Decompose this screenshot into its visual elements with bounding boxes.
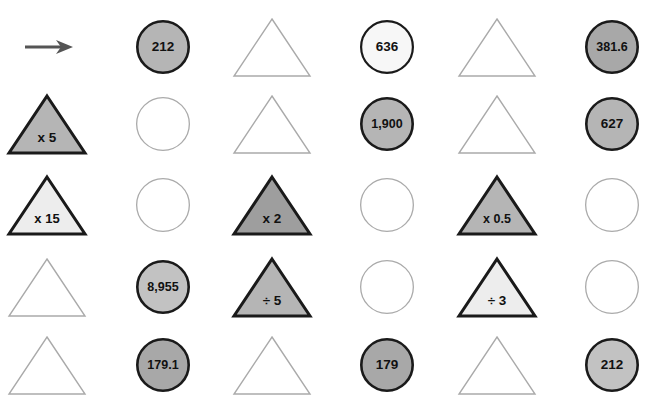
arrow-right-icon xyxy=(23,36,75,62)
shape-label: ÷ 3 xyxy=(488,293,507,308)
value-circle-r3c6[interactable] xyxy=(579,172,645,238)
operation-triangle-r3c5[interactable]: x 0.5 xyxy=(453,171,541,240)
shape-label: 1,900 xyxy=(371,117,402,131)
operation-triangle-r5c3[interactable] xyxy=(228,331,316,400)
value-circle-r5c2[interactable]: 179.1 xyxy=(130,332,196,398)
operation-triangle-r3c1[interactable]: x 15 xyxy=(3,171,91,240)
value-circle-r5c4[interactable]: 179 xyxy=(354,332,420,398)
operation-triangle-r1c3[interactable] xyxy=(228,13,316,82)
shape-label: x 0.5 xyxy=(483,212,511,226)
operation-triangle-r5c1[interactable] xyxy=(3,331,91,400)
operation-triangle-r5c5[interactable] xyxy=(453,331,541,400)
shape-label: ÷ 5 xyxy=(263,293,282,308)
operation-triangle-r2c5[interactable] xyxy=(453,90,541,159)
value-circle-r2c2[interactable] xyxy=(130,91,196,157)
value-circle-r3c2[interactable] xyxy=(130,172,196,238)
shape-label: 179.1 xyxy=(147,358,178,372)
value-circle-r1c4[interactable]: 636 xyxy=(354,14,420,80)
value-circle-r1c2[interactable]: 212 xyxy=(130,14,196,80)
operation-triangle-r4c5[interactable]: ÷ 3 xyxy=(453,253,541,322)
value-circle-r5c6[interactable]: 212 xyxy=(579,332,645,398)
operation-triangle-r1c5[interactable] xyxy=(453,13,541,82)
value-circle-r1c6[interactable]: 381.6 xyxy=(579,14,645,80)
value-circle-r3c4[interactable] xyxy=(354,172,420,238)
value-circle-r2c4[interactable]: 1,900 xyxy=(354,91,420,157)
shape-label: 212 xyxy=(152,39,175,54)
value-circle-r4c2[interactable]: 8,955 xyxy=(130,254,196,320)
value-circle-r4c6[interactable] xyxy=(579,254,645,320)
operation-triangle-r3c3[interactable]: x 2 xyxy=(228,171,316,240)
shape-label: 627 xyxy=(601,116,624,131)
shape-label: 8,955 xyxy=(147,280,178,294)
operation-triangle-r2c1[interactable]: x 5 xyxy=(3,90,91,159)
operation-triangle-r4c3[interactable]: ÷ 5 xyxy=(228,253,316,322)
shape-label: x 2 xyxy=(263,211,282,226)
shape-label: x 15 xyxy=(34,211,59,226)
operation-triangle-r2c3[interactable] xyxy=(228,90,316,159)
shape-label: 636 xyxy=(376,39,399,54)
worksheet-canvas: 212636381.6x 51,900627x 15x 2x 0.58,955÷… xyxy=(0,0,665,411)
shape-label: 179 xyxy=(376,357,399,372)
operation-triangle-r4c1[interactable] xyxy=(3,253,91,322)
value-circle-r4c4[interactable] xyxy=(354,254,420,320)
shape-label: x 5 xyxy=(38,130,57,145)
value-circle-r2c6[interactable]: 627 xyxy=(579,91,645,157)
shape-label: 212 xyxy=(601,357,624,372)
shape-label: 381.6 xyxy=(596,40,627,54)
